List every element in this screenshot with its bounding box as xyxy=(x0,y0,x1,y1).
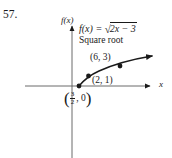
fraction-numerator: 3 xyxy=(70,91,76,98)
math-figure: 57. f(x) x f(x) = √2x − 3 Square root (6… xyxy=(0,0,172,158)
y-axis-label: f(x) xyxy=(61,16,74,25)
point-label-6-3: (6, 3) xyxy=(90,53,111,63)
equation-prefix: f(x) = xyxy=(79,23,105,34)
point-label-2-1: (2, 1) xyxy=(92,76,113,86)
point-marker-6-3 xyxy=(118,64,123,69)
point-label-x-intercept: ( 3 2 , 0 ) xyxy=(64,91,91,107)
fraction-three-halves: 3 2 xyxy=(70,91,76,107)
point-marker-2-1 xyxy=(86,74,91,79)
radicand: 2x − 3 xyxy=(110,22,137,34)
point-marker-intercept xyxy=(77,84,82,89)
function-name-label: Square root xyxy=(79,36,123,46)
paren-close: ) xyxy=(86,92,92,106)
radical-expression: √2x − 3 xyxy=(105,24,137,35)
fraction-denominator: 2 xyxy=(70,98,76,106)
equation-label: f(x) = √2x − 3 xyxy=(79,24,137,35)
intercept-y-value: , 0 xyxy=(76,94,86,104)
problem-number: 57. xyxy=(3,9,17,21)
x-axis-label: x xyxy=(159,80,163,89)
